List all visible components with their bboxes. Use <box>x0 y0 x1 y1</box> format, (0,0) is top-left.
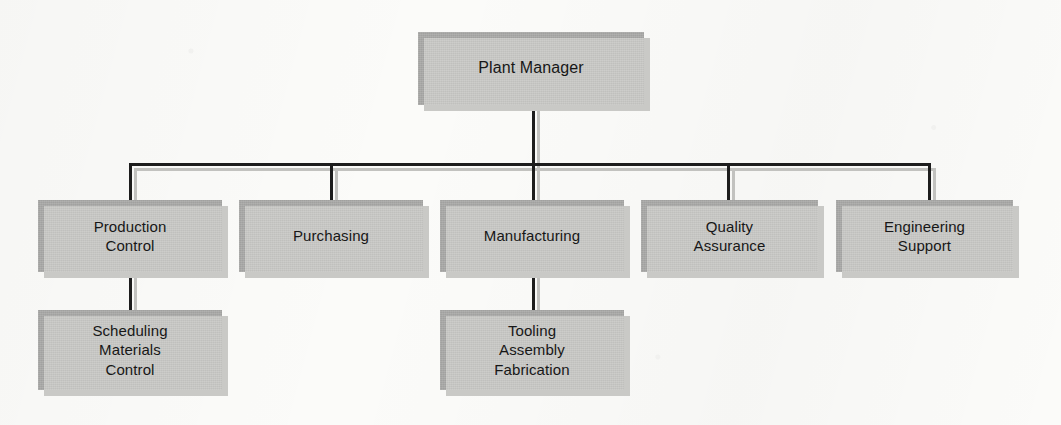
org-chart: Plant Manager ProductionControl Purchasi… <box>0 0 1061 425</box>
node-plant-manager[interactable]: Plant Manager <box>418 32 644 105</box>
node-label: ProductionControl <box>88 217 173 256</box>
connector-drop-quality-assurance <box>727 163 730 200</box>
node-label: QualityAssurance <box>688 217 772 256</box>
node-label: EngineeringSupport <box>878 217 971 256</box>
node-manufacturing[interactable]: Manufacturing <box>440 200 624 272</box>
node-quality-assurance[interactable]: QualityAssurance <box>641 200 818 272</box>
node-production-control[interactable]: ProductionControl <box>38 200 222 272</box>
connector-drop-production-control <box>129 163 132 200</box>
connector-drop-purchasing <box>330 163 333 200</box>
connector-horizontal-bus <box>129 163 931 166</box>
node-label: ToolingAssemblyFabrication <box>488 321 575 380</box>
node-purchasing[interactable]: Purchasing <box>239 200 423 272</box>
node-scheduling-materials-control[interactable]: SchedulingMaterialsControl <box>38 310 222 390</box>
node-label: SchedulingMaterialsControl <box>86 321 173 380</box>
connector-drop-manufacturing <box>532 163 535 200</box>
node-tooling-assembly-fabrication[interactable]: ToolingAssemblyFabrication <box>440 310 624 390</box>
node-engineering-support[interactable]: EngineeringSupport <box>836 200 1013 272</box>
node-label: Purchasing <box>287 226 375 246</box>
connector-drop-engineering-support <box>928 163 931 200</box>
connector-root-stem <box>532 105 535 163</box>
node-label: Plant Manager <box>472 58 589 79</box>
node-label: Manufacturing <box>478 226 586 246</box>
